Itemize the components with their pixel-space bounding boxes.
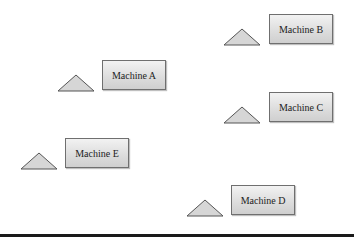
machine-a-label: Machine A xyxy=(112,70,156,81)
floor-line xyxy=(0,234,354,237)
machine-e-label: Machine E xyxy=(75,148,119,159)
machine-b-label: Machine B xyxy=(279,24,323,35)
machine-e-box: Machine E xyxy=(65,138,129,168)
machine-c-box: Machine C xyxy=(269,92,333,122)
operator-triangle-icon-d xyxy=(186,199,224,217)
machine-d-box: Machine D xyxy=(231,185,295,215)
operator-triangle-icon-c xyxy=(223,106,261,124)
machine-c-label: Machine C xyxy=(279,102,323,113)
machine-a-box: Machine A xyxy=(102,60,166,90)
operator-triangle-icon-a xyxy=(57,74,95,92)
operator-triangle-icon-e xyxy=(20,152,58,170)
operator-triangle-icon-b xyxy=(223,28,261,46)
machine-b-box: Machine B xyxy=(269,14,333,44)
machine-d-label: Machine D xyxy=(241,195,286,206)
